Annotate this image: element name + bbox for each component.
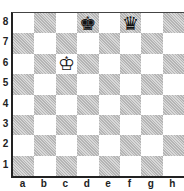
square-h4[interactable] xyxy=(163,95,184,115)
square-e4[interactable] xyxy=(99,95,120,115)
square-b4[interactable] xyxy=(34,95,55,115)
square-g1[interactable] xyxy=(141,156,162,176)
square-a8[interactable] xyxy=(13,13,34,33)
square-c2[interactable] xyxy=(56,135,77,155)
square-h3[interactable] xyxy=(163,115,184,135)
square-c5[interactable] xyxy=(56,74,77,94)
black-king-icon[interactable]: ♚ xyxy=(79,14,96,33)
square-h1[interactable] xyxy=(163,156,184,176)
rank-label: 4 xyxy=(1,98,10,109)
rank-label: 6 xyxy=(1,57,10,68)
file-label: a xyxy=(12,178,33,189)
square-f1[interactable] xyxy=(120,156,141,176)
square-a3[interactable] xyxy=(13,115,34,135)
square-b2[interactable] xyxy=(34,135,55,155)
file-label: d xyxy=(76,178,97,189)
square-e5[interactable] xyxy=(99,74,120,94)
square-b6[interactable] xyxy=(34,54,55,74)
square-d7[interactable] xyxy=(77,33,98,53)
square-d2[interactable] xyxy=(77,135,98,155)
square-a7[interactable] xyxy=(13,33,34,53)
square-d5[interactable] xyxy=(77,74,98,94)
chess-board: ♚♛♔ xyxy=(11,12,184,178)
square-d3[interactable] xyxy=(77,115,98,135)
square-d1[interactable] xyxy=(77,156,98,176)
square-h8[interactable] xyxy=(163,13,184,33)
square-h5[interactable] xyxy=(163,74,184,94)
file-label: e xyxy=(98,178,119,189)
square-b8[interactable] xyxy=(34,13,55,33)
square-e2[interactable] xyxy=(99,135,120,155)
file-label: b xyxy=(33,178,54,189)
square-f3[interactable] xyxy=(120,115,141,135)
square-c8[interactable] xyxy=(56,13,77,33)
square-d4[interactable] xyxy=(77,95,98,115)
black-queen-icon[interactable]: ♛ xyxy=(122,14,139,33)
square-c4[interactable] xyxy=(56,95,77,115)
square-e1[interactable] xyxy=(99,156,120,176)
square-e8[interactable] xyxy=(99,13,120,33)
square-b1[interactable] xyxy=(34,156,55,176)
square-c6[interactable]: ♔ xyxy=(56,54,77,74)
square-e6[interactable] xyxy=(99,54,120,74)
square-f7[interactable] xyxy=(120,33,141,53)
square-a2[interactable] xyxy=(13,135,34,155)
square-c3[interactable] xyxy=(56,115,77,135)
square-b5[interactable] xyxy=(34,74,55,94)
square-c7[interactable] xyxy=(56,33,77,53)
file-label: h xyxy=(162,178,183,189)
square-d6[interactable] xyxy=(77,54,98,74)
square-f2[interactable] xyxy=(120,135,141,155)
square-h7[interactable] xyxy=(163,33,184,53)
square-g3[interactable] xyxy=(141,115,162,135)
white-king-icon[interactable]: ♔ xyxy=(58,54,75,73)
square-h2[interactable] xyxy=(163,135,184,155)
square-a1[interactable] xyxy=(13,156,34,176)
square-g8[interactable] xyxy=(141,13,162,33)
rank-label: 5 xyxy=(1,77,10,88)
square-f8[interactable]: ♛ xyxy=(120,13,141,33)
square-g6[interactable] xyxy=(141,54,162,74)
rank-label: 1 xyxy=(1,159,10,170)
square-b7[interactable] xyxy=(34,33,55,53)
rank-label: 7 xyxy=(1,36,10,47)
square-g5[interactable] xyxy=(141,74,162,94)
rank-label: 2 xyxy=(1,138,10,149)
square-a5[interactable] xyxy=(13,74,34,94)
square-f6[interactable] xyxy=(120,54,141,74)
square-f5[interactable] xyxy=(120,74,141,94)
file-label: g xyxy=(140,178,161,189)
file-label: f xyxy=(119,178,140,189)
file-label: c xyxy=(55,178,76,189)
square-h6[interactable] xyxy=(163,54,184,74)
rank-label: 8 xyxy=(1,16,10,27)
square-a4[interactable] xyxy=(13,95,34,115)
square-g7[interactable] xyxy=(141,33,162,53)
square-b3[interactable] xyxy=(34,115,55,135)
square-g2[interactable] xyxy=(141,135,162,155)
rank-label: 3 xyxy=(1,118,10,129)
square-f4[interactable] xyxy=(120,95,141,115)
square-e3[interactable] xyxy=(99,115,120,135)
square-g4[interactable] xyxy=(141,95,162,115)
square-a6[interactable] xyxy=(13,54,34,74)
square-d8[interactable]: ♚ xyxy=(77,13,98,33)
square-c1[interactable] xyxy=(56,156,77,176)
square-e7[interactable] xyxy=(99,33,120,53)
